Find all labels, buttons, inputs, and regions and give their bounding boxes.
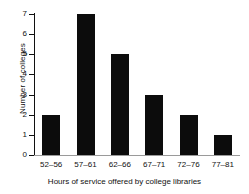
y-axis-tick-labels: 01234567 bbox=[0, 0, 27, 194]
y-axis-tick-label: 5 bbox=[0, 50, 27, 58]
x-axis-tick-label: 57–61 bbox=[68, 160, 102, 169]
x-axis-tick-label: 72–76 bbox=[171, 160, 205, 169]
bar bbox=[42, 115, 60, 155]
y-axis-tick-label: 2 bbox=[0, 111, 27, 119]
y-axis-tick bbox=[29, 95, 34, 96]
x-axis-line bbox=[34, 155, 240, 156]
y-axis-tick bbox=[29, 14, 34, 15]
x-axis-tick-label: 67–71 bbox=[137, 160, 171, 169]
bar-chart: Number of colleges 01234567 52–5657–6162… bbox=[0, 0, 249, 194]
y-axis-tick bbox=[29, 54, 34, 55]
y-axis-tick bbox=[29, 34, 34, 35]
y-axis-tick-label: 4 bbox=[0, 70, 27, 78]
plot-area bbox=[34, 14, 240, 155]
bar bbox=[145, 95, 163, 155]
y-axis-tick bbox=[29, 135, 34, 136]
y-axis-tick bbox=[29, 115, 34, 116]
x-axis-title: Hours of service offered by college libr… bbox=[0, 177, 249, 186]
y-axis-tick-label: 7 bbox=[0, 10, 27, 18]
bar bbox=[180, 115, 198, 155]
x-axis-tick-labels: 52–5657–6162–6667–7172–7677–81 bbox=[34, 160, 240, 172]
x-axis-tick-label: 62–66 bbox=[103, 160, 137, 169]
bar bbox=[111, 54, 129, 155]
y-axis-tick-label: 0 bbox=[0, 151, 27, 159]
x-axis-tick-label: 77–81 bbox=[206, 160, 240, 169]
bar bbox=[77, 14, 95, 155]
y-axis-tick bbox=[29, 155, 34, 156]
y-axis-tick-label: 3 bbox=[0, 91, 27, 99]
y-axis-tick-label: 6 bbox=[0, 30, 27, 38]
y-axis-tick bbox=[29, 74, 34, 75]
x-axis-tick-label: 52–56 bbox=[34, 160, 68, 169]
y-axis-tick-label: 1 bbox=[0, 131, 27, 139]
bar bbox=[214, 135, 232, 155]
